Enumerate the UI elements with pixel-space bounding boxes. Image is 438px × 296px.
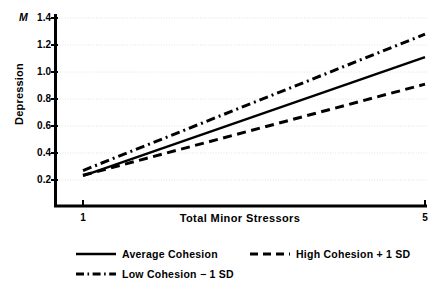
axis-lines [54,14,427,207]
x-axis-title: Total Minor Stressors [55,212,425,224]
legend-item-low-cohesion: Low Cohesion − 1 SD [76,268,234,280]
dashdot-line-key [76,268,116,280]
legend-label: Low Cohesion − 1 SD [122,268,234,280]
data-lines [83,34,425,176]
tick-marks [51,18,425,207]
legend-item-average-cohesion: Average Cohesion [76,248,218,260]
legend-item-high-cohesion: High Cohesion + 1 SD [250,248,410,260]
dashed-line-key [250,248,290,260]
legend-label: Average Cohesion [122,248,218,260]
legend-label: High Cohesion + 1 SD [296,248,410,260]
series-line [83,34,425,170]
chart-legend: Average Cohesion High Cohesion + 1 SD Lo… [0,246,438,296]
series-line [83,57,425,176]
depression-stressors-line-chart: Depression M 0.20.40.60.81.01.21.4 15 To… [0,0,438,296]
solid-line-key [76,248,116,260]
series-line [83,84,425,175]
